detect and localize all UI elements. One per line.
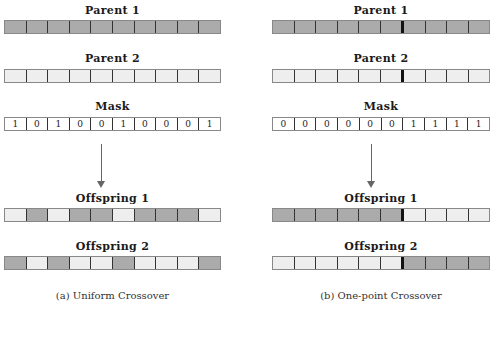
gene-cell — [5, 209, 27, 221]
gene-cell — [113, 21, 135, 33]
parent2-chromosome — [4, 69, 221, 83]
gene-cell — [381, 209, 405, 221]
offspring1-label: Offspring 1 — [4, 193, 221, 205]
gene-cell — [404, 21, 426, 33]
gene-cell — [295, 21, 317, 33]
gene-cell — [113, 70, 135, 82]
gene-cell — [295, 257, 317, 269]
gene-cell — [48, 209, 70, 221]
gene-cell — [70, 257, 92, 269]
gene-cell — [295, 209, 317, 221]
gene-cell — [426, 209, 448, 221]
one-point-crossover-panel: Parent 1 Parent 2 Mask 0000001111 Offspr… — [272, 0, 490, 345]
mask-bit: 0 — [27, 118, 49, 130]
gene-cell — [273, 209, 295, 221]
gene-cell — [48, 257, 70, 269]
mask-bit: 1 — [113, 118, 135, 130]
parent1-label: Parent 1 — [4, 5, 221, 17]
mask-bit: 0 — [316, 118, 338, 130]
gene-cell — [113, 257, 135, 269]
gene-cell — [48, 70, 70, 82]
gene-cell — [70, 70, 92, 82]
gene-cell — [273, 257, 295, 269]
gene-cell — [381, 257, 405, 269]
gene-cell — [199, 70, 220, 82]
gene-cell — [359, 257, 381, 269]
parent2-chromosome — [272, 69, 490, 83]
parent1-label: Parent 1 — [272, 5, 490, 17]
mask-label: Mask — [272, 101, 490, 113]
mask-bit: 0 — [273, 118, 295, 130]
gene-cell — [404, 209, 426, 221]
gene-cell — [359, 209, 381, 221]
offspring2-chromosome — [4, 256, 221, 270]
gene-cell — [156, 70, 178, 82]
gene-cell — [113, 209, 135, 221]
gene-cell — [359, 70, 381, 82]
offspring1-label: Offspring 1 — [272, 193, 490, 205]
gene-cell — [135, 257, 157, 269]
gene-cell — [338, 257, 360, 269]
gene-cell — [27, 257, 49, 269]
gene-cell — [447, 257, 469, 269]
gene-cell — [469, 70, 490, 82]
gene-cell — [338, 70, 360, 82]
gene-cell — [447, 209, 469, 221]
gene-cell — [426, 257, 448, 269]
uniform-crossover-panel: Parent 1 Parent 2 Mask 1010010001 Offspr… — [4, 0, 221, 345]
gene-cell — [5, 70, 27, 82]
mask-bit: 1 — [425, 118, 447, 130]
gene-cell — [135, 209, 157, 221]
offspring1-chromosome — [272, 208, 490, 222]
mask-bit: 0 — [135, 118, 157, 130]
gene-cell — [135, 21, 157, 33]
gene-cell — [178, 21, 200, 33]
gene-cell — [381, 70, 405, 82]
gene-cell — [316, 257, 338, 269]
mask-bit: 0 — [295, 118, 317, 130]
gene-cell — [316, 70, 338, 82]
gene-cell — [316, 209, 338, 221]
gene-cell — [404, 257, 426, 269]
mask-bit: 1 — [468, 118, 489, 130]
gene-cell — [135, 70, 157, 82]
offspring2-chromosome — [272, 256, 490, 270]
gene-cell — [27, 21, 49, 33]
gene-cell — [156, 209, 178, 221]
mask-chromosome: 0000001111 — [272, 117, 490, 131]
gene-cell — [199, 209, 220, 221]
gene-cell — [156, 21, 178, 33]
gene-cell — [469, 257, 490, 269]
parent2-label: Parent 2 — [4, 53, 221, 65]
gene-cell — [70, 21, 92, 33]
offspring2-label: Offspring 2 — [4, 241, 221, 253]
mask-bit: 0 — [156, 118, 178, 130]
gene-cell — [447, 70, 469, 82]
mask-bit: 1 — [447, 118, 469, 130]
offspring1-chromosome — [4, 208, 221, 222]
gene-cell — [91, 209, 113, 221]
gene-cell — [359, 21, 381, 33]
mask-bit: 0 — [70, 118, 92, 130]
caption-uniform: (a) Uniform Crossover — [4, 290, 221, 301]
mask-bit: 0 — [382, 118, 404, 130]
gene-cell — [178, 70, 200, 82]
down-arrow-icon — [367, 144, 377, 188]
parent2-label: Parent 2 — [272, 53, 490, 65]
caption-one-point: (b) One-point Crossover — [272, 290, 490, 301]
gene-cell — [273, 70, 295, 82]
down-arrow-icon — [97, 144, 107, 188]
parent1-chromosome — [4, 20, 221, 34]
mask-chromosome: 1010010001 — [4, 117, 221, 131]
gene-cell — [469, 209, 490, 221]
gene-cell — [447, 21, 469, 33]
parent1-chromosome — [272, 20, 490, 34]
mask-bit: 0 — [360, 118, 382, 130]
mask-label: Mask — [4, 101, 221, 113]
gene-cell — [338, 209, 360, 221]
gene-cell — [469, 21, 490, 33]
gene-cell — [178, 257, 200, 269]
gene-cell — [426, 21, 448, 33]
mask-bit: 1 — [48, 118, 70, 130]
gene-cell — [5, 21, 27, 33]
